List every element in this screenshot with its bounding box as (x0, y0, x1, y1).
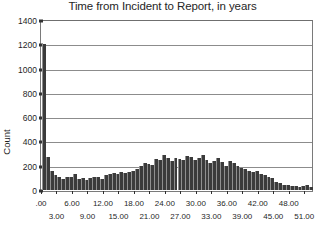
y-tick-label: 400 (23, 138, 37, 147)
x-tick-label: 3.00 (49, 212, 65, 221)
x-tick-label: 12.00 (93, 199, 113, 208)
x-tick-mark (134, 191, 135, 194)
x-tick-mark (227, 191, 228, 194)
x-tick-label: 6.00 (64, 199, 80, 208)
y-axis-label: Count (2, 117, 12, 167)
x-axis-labels-row2: 3.009.0015.0021.0027.0033.0039.0045.0051… (40, 212, 313, 222)
x-tick-label: 33.00 (201, 212, 221, 221)
x-tick-mark (72, 191, 73, 194)
x-tick-label: .00 (35, 199, 46, 208)
x-tick-mark (273, 191, 274, 194)
x-tick-mark (103, 191, 104, 194)
y-tick-label: 1400 (18, 17, 37, 26)
x-tick-mark (289, 191, 290, 194)
x-tick-mark (242, 191, 243, 194)
x-tick-mark (149, 191, 150, 194)
x-tick-label: 30.00 (186, 199, 206, 208)
x-tick-mark (87, 191, 88, 194)
x-tick-mark (41, 191, 42, 194)
x-tick-mark (180, 191, 181, 194)
x-tick-label: 21.00 (139, 212, 159, 221)
y-tick-label: 0 (32, 187, 37, 196)
x-tick-label: 39.00 (232, 212, 252, 221)
x-tick-mark (118, 191, 119, 194)
y-tick-label: 200 (23, 162, 37, 171)
x-axis-labels-row1: .006.0012.0018.0024.0030.0036.0042.0048.… (40, 199, 313, 209)
y-tick-label: 1000 (18, 65, 37, 74)
x-tick-label: 42.00 (248, 199, 268, 208)
x-tick-label: 36.00 (217, 199, 237, 208)
plot-area: 0200400600800100012001400 (40, 20, 313, 192)
x-tick-mark (304, 191, 305, 194)
y-tick-label: 600 (23, 114, 37, 123)
x-tick-label: 51.00 (294, 212, 314, 221)
x-tick-label: 45.00 (263, 212, 283, 221)
histogram-chart: Time from Incident to Report, in years C… (0, 0, 325, 229)
y-tick-label: 1200 (18, 41, 37, 50)
x-tick-label: 9.00 (80, 212, 96, 221)
bar (309, 187, 313, 190)
x-tick-mark (165, 191, 166, 194)
x-tick-label: 48.00 (279, 199, 299, 208)
x-tick-label: 18.00 (124, 199, 144, 208)
x-tick-label: 24.00 (155, 199, 175, 208)
x-tick-mark (211, 191, 212, 194)
x-tick-mark (258, 191, 259, 194)
x-tick-mark (196, 191, 197, 194)
chart-title: Time from Incident to Report, in years (0, 0, 325, 13)
x-tick-mark (56, 191, 57, 194)
x-tick-label: 15.00 (108, 212, 128, 221)
y-tick-label: 800 (23, 89, 37, 98)
x-tick-label: 27.00 (170, 212, 190, 221)
bar-series (42, 22, 311, 190)
